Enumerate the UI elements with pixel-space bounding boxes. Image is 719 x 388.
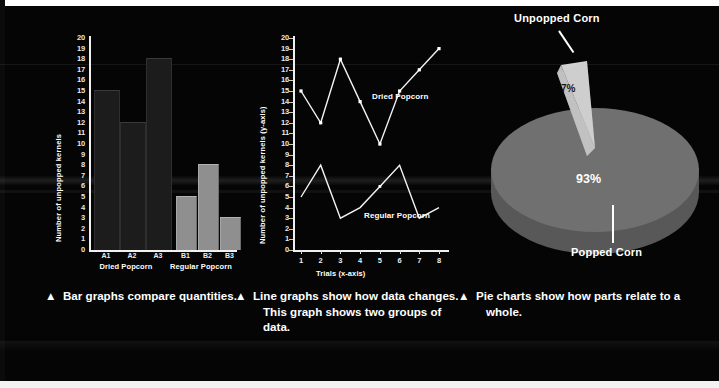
line-chart-x-tickmark xyxy=(419,250,420,254)
bar-chart-y-tick: 0 xyxy=(66,246,85,254)
line-chart-y-tickmark xyxy=(289,208,293,209)
pie-chart-graphic: 7% 93% xyxy=(483,40,707,280)
pie-chart-label-popped: Popped Corn xyxy=(571,246,642,258)
line-chart-y-tickmark xyxy=(289,49,293,50)
line-chart-x-tick: 6 xyxy=(393,256,407,265)
line-chart-data-point xyxy=(339,58,342,61)
line-chart-x-tick: 2 xyxy=(314,256,328,265)
bar-chart-y-tick: 3 xyxy=(66,214,85,222)
bar-chart-y-tick: 13 xyxy=(66,108,85,116)
line-chart-y-tick: 1 xyxy=(270,235,289,243)
bar-chart-category-label: B3 xyxy=(217,252,243,259)
line-chart-y-tick: 14 xyxy=(270,98,289,106)
bar-chart-bar xyxy=(94,90,120,250)
figure-page: Number of unpopped kernels 0123456789101… xyxy=(0,0,719,388)
pie-chart-leader-line-popped xyxy=(612,205,614,243)
line-chart-x-tickmark xyxy=(380,250,381,254)
line-chart-y-tick: 12 xyxy=(270,119,289,127)
line-chart-x-tick: 3 xyxy=(333,256,347,265)
line-chart-y-tick: 5 xyxy=(270,193,289,201)
line-chart-y-tick: 17 xyxy=(270,66,289,74)
bar-chart-y-tick: 14 xyxy=(66,98,85,106)
line-chart-y-tick: 20 xyxy=(270,34,289,42)
line-chart-x-axis-title: Trials (x-axis) xyxy=(316,269,365,278)
caption-line-graph-text: Line graphs show how data changes. This … xyxy=(253,289,459,333)
page-bottom-edge xyxy=(0,381,719,388)
line-chart-data-point xyxy=(299,89,302,92)
bar-chart-y-axis-title: Number of unpopped kernels xyxy=(54,134,63,242)
bar-chart-y-tick: 16 xyxy=(66,76,85,84)
line-chart-data-point xyxy=(378,142,381,145)
bar-chart-y-tick: 2 xyxy=(66,225,85,233)
caption-row: ▲Bar graphs compare quantities. ▲Line gr… xyxy=(0,288,719,354)
caption-bar-graph: ▲Bar graphs compare quantities. xyxy=(59,288,255,304)
line-chart-y-tickmark xyxy=(289,229,293,230)
line-chart-x-tickmark xyxy=(439,250,440,254)
line-chart-y-tickmark xyxy=(289,80,293,81)
line-chart-y-tickmark xyxy=(289,59,293,60)
line-chart-y-tickmark xyxy=(289,250,293,251)
bar-chart-y-tick: 12 xyxy=(66,119,85,127)
bar-chart-bar xyxy=(146,58,172,250)
bar-chart-y-tick: 8 xyxy=(66,161,85,169)
line-chart-data-point xyxy=(437,47,440,50)
line-chart-y-tickmark xyxy=(289,91,293,92)
line-chart-y-tick: 3 xyxy=(270,214,289,222)
bar-chart-y-tick: 4 xyxy=(66,204,85,212)
bar-chart-y-tick: 11 xyxy=(66,129,85,137)
bar-chart-y-tick: 6 xyxy=(66,182,85,190)
line-chart-y-tickmark xyxy=(289,123,293,124)
bar-chart-y-tick: 20 xyxy=(66,34,85,42)
line-chart-x-tickmark xyxy=(321,250,322,254)
bar-chart-y-tick: 18 xyxy=(66,55,85,63)
line-chart-y-tick: 2 xyxy=(270,225,289,233)
line-chart-panel: Number of unpopped kernels (y-axis) 0123… xyxy=(256,6,471,336)
bar-chart-bar xyxy=(120,122,146,250)
line-chart-x-axis-line xyxy=(293,250,449,252)
line-chart-data-point xyxy=(418,68,421,71)
bar-chart-y-tick: 9 xyxy=(66,151,85,159)
bar-chart-y-tick: 5 xyxy=(66,193,85,201)
line-chart-x-tickmark xyxy=(301,250,302,254)
line-chart-y-tick: 4 xyxy=(270,204,289,212)
line-chart-y-tick: 6 xyxy=(270,182,289,190)
line-chart-y-tick: 18 xyxy=(270,55,289,63)
bar-chart-bar xyxy=(220,217,241,250)
line-chart-y-tick: 9 xyxy=(270,151,289,159)
line-chart-data-point xyxy=(379,185,382,188)
caption-pie-chart-text: Pie charts show how parts relate to a wh… xyxy=(476,289,680,318)
caption-pie-chart: ▲Pie charts show how parts relate to a w… xyxy=(472,288,684,319)
pie-chart-label-unpopped: Unpopped Corn xyxy=(514,12,600,24)
line-chart-y-tickmark xyxy=(289,155,293,156)
line-chart-y-tickmark xyxy=(289,70,293,71)
pie-chart-value-unpopped: 7% xyxy=(561,83,575,94)
bar-chart-category-label: A2 xyxy=(119,252,145,259)
line-chart-y-tickmark xyxy=(289,133,293,134)
pie-slice-top-popped xyxy=(491,108,699,232)
bar-chart-y-tick: 15 xyxy=(66,87,85,95)
bar-chart-group-label-dried: Dried Popcorn xyxy=(90,262,162,271)
line-chart-y-tick: 11 xyxy=(270,129,289,137)
caption-line-graph: ▲Line graphs show how data changes. This… xyxy=(249,288,461,335)
line-chart-y-tickmark xyxy=(289,176,293,177)
line-chart-y-tickmark xyxy=(289,218,293,219)
line-chart-y-tickmark xyxy=(289,186,293,187)
line-chart-y-tick: 19 xyxy=(270,45,289,53)
line-chart-series-label-regular: Regular Popcorn xyxy=(364,211,430,220)
line-chart-x-tick: 7 xyxy=(412,256,426,265)
line-chart-y-axis-title: Number of unpopped kernels (y-axis) xyxy=(258,106,267,244)
line-chart-y-tickmark xyxy=(289,112,293,113)
line-chart-x-tickmark xyxy=(360,250,361,254)
line-chart-data-point xyxy=(319,121,322,124)
caption-bar-graph-text: Bar graphs compare quantities. xyxy=(63,289,237,302)
bar-chart-bar xyxy=(198,164,219,250)
bar-chart-panel: Number of unpopped kernels 0123456789101… xyxy=(6,6,256,336)
line-chart-y-tickmark xyxy=(289,144,293,145)
bar-chart-bar xyxy=(176,196,197,250)
pie-chart-panel: Unpopped Corn xyxy=(471,6,719,336)
bar-chart-y-tick: 1 xyxy=(66,235,85,243)
line-chart-series-label-dried: Dried Popcorn xyxy=(372,92,428,101)
pie-chart-svg xyxy=(483,40,707,280)
pie-chart-value-popped: 93% xyxy=(576,172,601,186)
line-chart-x-tick: 8 xyxy=(432,256,446,265)
